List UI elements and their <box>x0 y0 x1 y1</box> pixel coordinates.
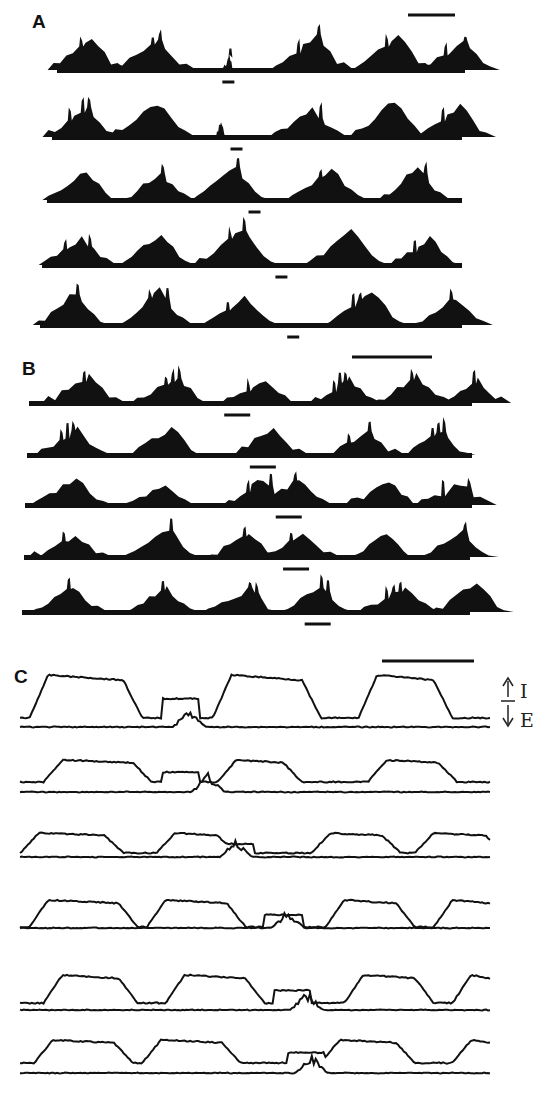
figure: A B C I E <box>0 0 552 1099</box>
a-row <box>33 284 493 337</box>
burst <box>416 104 496 137</box>
burst <box>401 417 475 455</box>
burst <box>437 370 511 403</box>
burst <box>286 169 368 200</box>
burst <box>194 217 281 265</box>
b-row <box>25 471 497 517</box>
burst <box>275 574 355 612</box>
burst <box>33 284 111 325</box>
burst <box>120 164 195 200</box>
burst <box>120 235 196 265</box>
nerve-activity-trace <box>20 995 490 1011</box>
panel-label-c: C <box>14 666 28 687</box>
panel-label-b: B <box>22 358 36 379</box>
integrated-trace <box>20 1040 490 1064</box>
burst <box>350 103 431 137</box>
nerve-activity-trace <box>20 1056 490 1074</box>
burst <box>325 292 410 325</box>
burst <box>126 581 200 612</box>
panel-label-a: A <box>32 11 46 32</box>
burst <box>42 371 126 403</box>
burst <box>30 479 113 506</box>
c-row <box>20 833 490 858</box>
burst <box>352 34 435 70</box>
burst <box>202 582 284 612</box>
burst <box>36 421 112 455</box>
integrated-trace <box>20 975 490 1004</box>
a-row <box>43 158 463 212</box>
burst <box>345 483 424 505</box>
a-row <box>48 24 500 82</box>
burst <box>201 296 279 325</box>
burst <box>320 421 405 455</box>
burst <box>358 581 442 612</box>
legend-inspiration-label: I <box>520 680 528 702</box>
burst <box>410 289 493 325</box>
integrated-trace <box>20 900 490 928</box>
nerve-activity-trace <box>20 713 490 728</box>
integrated-trace <box>20 833 490 854</box>
b-row <box>29 365 511 415</box>
b-row <box>27 417 476 467</box>
burst <box>217 49 243 71</box>
burst <box>309 372 382 403</box>
burst <box>378 162 450 201</box>
burst <box>122 518 207 557</box>
burst <box>419 522 499 558</box>
burst <box>119 287 193 325</box>
integrated-trace <box>20 760 490 783</box>
burst <box>39 234 117 265</box>
burst <box>43 97 123 137</box>
burst <box>192 158 272 200</box>
burst <box>109 29 196 70</box>
panel-b-bursts <box>22 365 514 624</box>
burst <box>229 428 309 455</box>
burst <box>28 531 112 557</box>
burst <box>126 427 207 455</box>
b-row <box>24 518 499 569</box>
burst <box>418 37 500 70</box>
burst <box>372 369 452 403</box>
burst <box>304 229 389 265</box>
burst <box>131 365 214 403</box>
burst <box>416 478 497 505</box>
burst <box>270 24 354 70</box>
c-row <box>20 1040 490 1074</box>
a-row <box>39 217 463 277</box>
ie-legend: I E <box>501 678 534 731</box>
burst <box>430 584 514 612</box>
panel-c-traces <box>20 675 490 1074</box>
burst <box>43 172 122 200</box>
b-row <box>22 574 514 624</box>
burst <box>121 485 202 505</box>
nerve-activity-trace <box>20 773 490 792</box>
burst <box>346 534 420 557</box>
burst <box>256 533 341 557</box>
a-row <box>43 97 497 149</box>
c-row <box>20 675 490 728</box>
c-row <box>20 760 490 793</box>
burst <box>109 106 195 137</box>
burst <box>269 102 347 137</box>
legend-expiration-label: E <box>520 709 534 731</box>
burst <box>221 378 301 403</box>
burst <box>48 36 128 70</box>
panel-a-bursts <box>33 24 500 337</box>
burst <box>390 236 463 265</box>
burst <box>30 578 108 613</box>
c-row <box>20 900 490 929</box>
integrated-trace <box>20 675 490 719</box>
c-row <box>20 975 490 1011</box>
